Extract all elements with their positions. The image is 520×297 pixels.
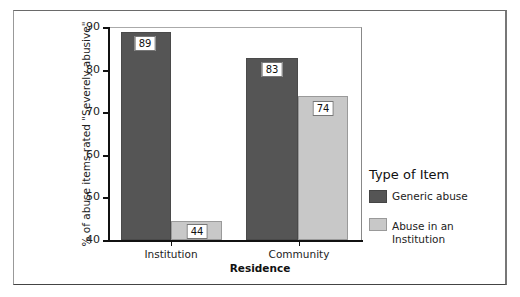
value-label: 83 [262,62,283,77]
y-tick [103,197,109,199]
value-label: 89 [135,36,156,51]
y-tick [103,240,109,242]
bar-community-generic [246,58,298,240]
legend-label-line: Abuse in an [392,220,454,233]
x-tick-label: Community [259,248,339,260]
legend-swatch-generic [369,190,387,203]
bar-community-abuse-in-institution [298,96,348,240]
x-axis [103,240,363,242]
legend-label-line: Institution [392,233,454,246]
x-tick [299,240,300,246]
x-tick-label: Institution [131,248,211,260]
y-tick [103,112,109,114]
y-tick [103,27,109,29]
y-axis-title: % of abuse items rated "Severely abusive… [80,22,92,247]
legend-swatch-institution [369,218,387,231]
x-tick [171,240,172,246]
bar-institution-generic [121,32,171,240]
value-label: 44 [187,224,208,239]
value-label: 74 [313,101,334,116]
y-tick [103,70,109,72]
y-axis [108,27,110,241]
legend-label-institution: Abuse in an Institution [392,220,454,246]
legend-title: Type of Item [369,167,449,182]
x-axis-title: Residence [205,262,315,274]
y-tick [103,155,109,157]
legend-label-generic: Generic abuse [392,190,468,203]
